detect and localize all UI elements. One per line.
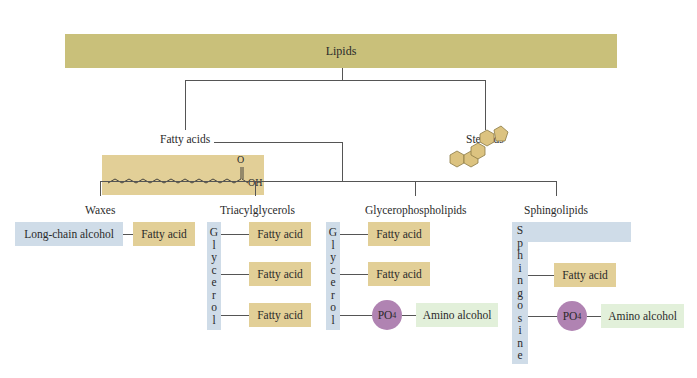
- connector: [415, 181, 416, 196]
- backbone-letter: S: [517, 224, 523, 237]
- tag-fatty-acid-box-3: Fatty acid: [249, 303, 311, 327]
- connector: [528, 316, 558, 317]
- connector: [402, 315, 416, 316]
- backbone-letter: h: [517, 249, 523, 262]
- steroid-ring-icon: [440, 115, 540, 175]
- backbone-letter: n: [517, 337, 523, 350]
- backbone-letter: o: [330, 301, 336, 314]
- wax-fatty-acid-box: Fatty acid: [133, 222, 195, 246]
- connector: [587, 316, 601, 317]
- connector: [221, 274, 249, 275]
- backbone-letter: l: [212, 239, 215, 252]
- backbone-letter: G: [210, 226, 218, 239]
- connector: [214, 142, 343, 143]
- phosphate-label: PO: [563, 310, 578, 322]
- gpl-fatty-acid-box-2: Fatty acid: [368, 262, 430, 286]
- long-chain-alcohol-box: Long-chain alcohol: [15, 222, 123, 246]
- connector: [528, 275, 554, 276]
- phosphate-circle: PO4: [372, 300, 402, 330]
- backbone-letter: o: [211, 301, 217, 314]
- lipids-title: Lipids: [326, 44, 357, 59]
- sphingo-fatty-acid-box: Fatty acid: [554, 263, 616, 287]
- waxes-label: Waxes: [85, 204, 115, 216]
- connector: [342, 142, 343, 182]
- backbone-letter: i: [518, 324, 521, 337]
- backbone-letter: l: [331, 239, 334, 252]
- tag-fatty-acid-box-1: Fatty acid: [249, 222, 311, 246]
- phosphate-label: PO: [378, 309, 393, 321]
- connector: [221, 315, 249, 316]
- backbone-letter: e: [211, 276, 216, 289]
- backbone-letter: r: [331, 289, 335, 302]
- backbone-letter: i: [518, 262, 521, 275]
- backbone-letter: o: [517, 299, 523, 312]
- backbone-letter: l: [212, 314, 215, 327]
- phosphate-subscript: 4: [392, 311, 396, 320]
- gpl-amino-alcohol-box: Amino alcohol: [416, 303, 498, 327]
- backbone-letter: r: [212, 289, 216, 302]
- connector: [556, 181, 557, 196]
- connector: [185, 80, 186, 130]
- phosphate-subscript: 4: [577, 312, 581, 321]
- lipids-title-bar: Lipids: [65, 34, 617, 68]
- connector: [123, 234, 133, 235]
- fatty-acids-label: Fatty acids: [160, 133, 210, 145]
- backbone-letter: c: [330, 264, 335, 277]
- glycerol-backbone: G l y c e r o l: [326, 222, 340, 330]
- sphingosine-top-arm: [512, 222, 631, 242]
- triacylglycerols-label: Triacylglycerols: [220, 204, 295, 216]
- connector: [100, 181, 557, 182]
- backbone-letter: y: [330, 251, 336, 264]
- sphingolipids-label: Sphingolipids: [524, 204, 588, 216]
- sphingosine-backbone: S p h i n g o s i n e: [512, 222, 528, 364]
- connector: [185, 80, 486, 81]
- tag-fatty-acid-box-2: Fatty acid: [249, 262, 311, 286]
- backbone-letter: l: [331, 314, 334, 327]
- backbone-letter: n: [517, 274, 523, 287]
- connector: [221, 234, 249, 235]
- backbone-letter: p: [517, 237, 523, 250]
- connector: [340, 274, 368, 275]
- backbone-letter: G: [329, 226, 337, 239]
- sphingo-amino-alcohol-box: Amino alcohol: [601, 304, 684, 328]
- connector: [340, 234, 368, 235]
- gpl-fatty-acid-box-1: Fatty acid: [368, 222, 430, 246]
- glycerol-backbone: G l y c e r o l: [207, 222, 221, 330]
- connector: [100, 181, 101, 196]
- fatty-acid-structure: O OH: [102, 155, 264, 195]
- backbone-letter: s: [518, 312, 522, 325]
- backbone-letter: c: [211, 264, 216, 277]
- backbone-letter: g: [517, 287, 523, 300]
- backbone-letter: y: [211, 251, 217, 264]
- backbone-letter: e: [330, 276, 335, 289]
- connector: [340, 315, 372, 316]
- glycerophospholipids-label: Glycerophospholipids: [365, 204, 467, 216]
- oxygen-label: O: [237, 154, 244, 165]
- phosphate-circle: PO4: [557, 301, 587, 331]
- backbone-letter: e: [517, 349, 522, 362]
- connector: [255, 181, 256, 196]
